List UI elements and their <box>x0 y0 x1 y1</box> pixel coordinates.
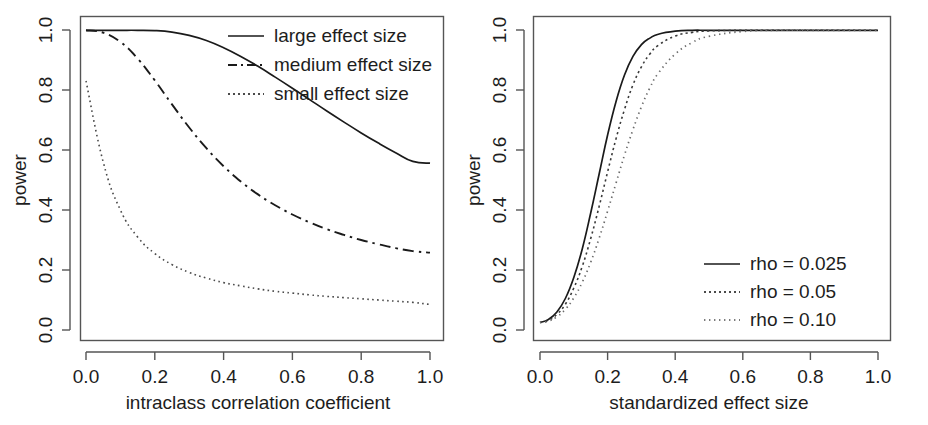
right-ytick-3: 0.6 <box>489 137 510 163</box>
left-ytick-4: 0.8 <box>35 77 56 103</box>
right-ytick-0: 0.0 <box>489 317 510 343</box>
left-ytick-2: 0.4 <box>35 196 56 223</box>
left-xtick-4: 0.8 <box>348 366 374 387</box>
curve-small-effect-size <box>86 81 430 305</box>
right-xtick-4: 0.8 <box>797 366 823 387</box>
right-legend-label-0: rho = 0.025 <box>750 253 847 274</box>
right-xtick-2: 0.4 <box>662 366 689 387</box>
right-ytick-4: 0.8 <box>489 77 510 103</box>
left-ytick-0: 0.0 <box>35 317 56 343</box>
left-legend-label-1: medium effect size <box>274 54 432 75</box>
left-ytick-5: 1.0 <box>35 17 56 43</box>
left-xtick-3: 0.6 <box>279 366 305 387</box>
left-legend-label-0: large effect size <box>274 25 407 46</box>
panel-right-effectsize-power: 0.0 0.2 0.4 0.6 0.8 1.0 0.0 0.2 0.4 0.6 … <box>464 0 928 425</box>
figure-two-panel-power-plots: 0.0 0.2 0.4 0.6 0.8 1.0 0.0 0.2 0.4 0.6 … <box>0 0 928 425</box>
right-legend-label-1: rho = 0.05 <box>750 281 836 302</box>
right-legend: rho = 0.025 rho = 0.05 rho = 0.10 <box>704 253 847 330</box>
left-xtick-2: 0.4 <box>210 366 237 387</box>
curve-rho-010 <box>540 30 878 322</box>
right-legend-label-2: rho = 0.10 <box>750 309 836 330</box>
right-y-axis-title: power <box>464 153 484 205</box>
right-xtick-0: 0.0 <box>527 366 553 387</box>
panel-left-icc-power: 0.0 0.2 0.4 0.6 0.8 1.0 0.0 0.2 0.4 0.6 … <box>0 0 464 425</box>
left-xtick-5: 1.0 <box>417 366 443 387</box>
right-xtick-3: 0.6 <box>730 366 756 387</box>
curve-rho-005 <box>540 30 878 322</box>
right-ytick-2: 0.4 <box>489 196 510 223</box>
left-y-axis-title: power <box>9 153 30 205</box>
right-plot-frame <box>534 17 891 341</box>
left-plot-svg: 0.0 0.2 0.4 0.6 0.8 1.0 0.0 0.2 0.4 0.6 … <box>0 0 464 425</box>
right-x-axis <box>540 352 878 360</box>
left-legend: large effect size medium effect size sma… <box>228 25 432 104</box>
left-xtick-0: 0.0 <box>73 366 99 387</box>
left-x-axis-title: intraclass correlation coefficient <box>126 392 391 413</box>
left-ytick-1: 0.2 <box>35 257 56 283</box>
right-ytick-5: 1.0 <box>489 17 510 43</box>
left-legend-label-2: small effect size <box>274 83 409 104</box>
left-ytick-3: 0.6 <box>35 137 56 163</box>
right-ytick-1: 0.2 <box>489 257 510 283</box>
right-x-axis-title: standardized effect size <box>609 392 808 413</box>
right-plot-svg: 0.0 0.2 0.4 0.6 0.8 1.0 0.0 0.2 0.4 0.6 … <box>464 0 928 425</box>
right-xtick-1: 0.2 <box>594 366 620 387</box>
left-y-axis <box>62 30 70 330</box>
left-x-axis <box>86 352 430 360</box>
curve-rho-0025 <box>540 30 878 322</box>
right-y-axis <box>516 30 524 330</box>
right-xtick-5: 1.0 <box>865 366 891 387</box>
left-xtick-1: 0.2 <box>142 366 168 387</box>
